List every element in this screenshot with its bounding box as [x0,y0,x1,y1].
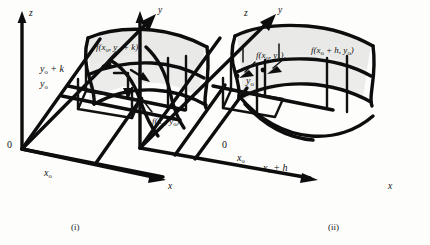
x-axis-label-i: x [168,182,172,192]
z-axis-arrowhead-i [18,11,27,23]
y0-tick-label-ii: yo [246,76,254,86]
y0-plus-k-sub-i: o [44,68,47,75]
value-label-f-x0-y0-ii: f(xo, yo) [256,51,284,60]
point-f-x0-y0-ii [235,74,240,79]
x0-tick-sub-ii: o [241,157,244,164]
panel-caption-i: (i) [71,222,80,232]
y0-tick-label-i: yo [40,79,48,89]
vl2-sub1-ii: o [321,49,324,56]
x0-tick-label-ii: xo [237,153,245,163]
gridline-x0-i [96,100,140,163]
vl1-sub2-ii: o [277,54,280,61]
panel-ii: z y x 0 xo xo + h yo f(xo, yo) f(xo + h,… [215,0,430,245]
panel-caption-ii: (ii) [328,222,339,232]
vl1-suffix-i: + k) [121,42,139,52]
panel-i: z y x 0 xo yo + k yo f(xo, yo + k) f(xo,… [0,0,215,245]
x0h-tick-tail-ii: + h [271,162,288,173]
value-label-f-x0-y0-plus-k-i: f(xo, yo + k) [96,43,138,52]
point-f-x0h-y0-ii [261,68,266,73]
vl2-prefix-ii: f(x [311,45,321,55]
x0-plus-h-tick-label-ii: xo + h [263,163,288,173]
z-axis-label-i: z [29,9,33,19]
vl1-suffix-ii: ) [281,50,284,60]
value-label-f-x0-plus-h-y0-ii: f(xo + h, yo) [311,46,354,55]
ground-plane-i [22,39,100,149]
y0-tick-sub-i: o [44,83,47,90]
vl1-sub2-i: o [117,46,120,53]
vl1-sub1-ii: o [266,54,269,61]
x0h-tick-sub-ii: o [267,167,270,174]
vl2-sub2-ii: o [347,49,350,56]
x-axis-label-ii: x [388,182,392,192]
origin-label-ii: 0 [222,140,227,150]
y-axis-label-ii: y [278,6,282,16]
x-axis-i [22,149,158,178]
figure-root: z y x 0 xo yo + k yo f(xo, yo + k) f(xo,… [0,0,430,245]
vl2-mid-ii: + h, y [324,45,348,55]
x0-tick-sub-i: o [48,172,51,179]
origin-label-i: 0 [7,140,12,150]
vl1-sub1-i: o [106,46,109,53]
vl2-sub2-i: o [173,120,176,127]
vl1-prefix-ii: f(x [256,50,266,60]
y-axis-label-i: y [158,6,162,16]
vl1-prefix-i: f(x [96,42,106,52]
z-axis-label-ii: z [244,9,248,19]
y0-tick-sub-ii: o [250,80,253,87]
panel-i-drawing [0,0,215,245]
vl2-suffix-i: ) [177,116,180,126]
x-axis-arrowhead-ii [300,173,318,183]
y0-plus-k-tail-i: + k [48,63,64,74]
x0-tick-label-i: xo [44,168,52,178]
y0-plus-k-tick-label-i: yo + k [40,64,64,74]
vl2-suffix-ii: ) [351,45,354,55]
panel-ii-drawing [215,0,430,245]
